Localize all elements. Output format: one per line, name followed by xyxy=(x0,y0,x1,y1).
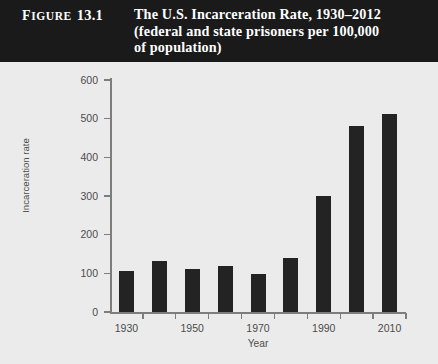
y-axis-tick-label: 0 xyxy=(28,307,98,317)
chart-panel: 0100200300400500600 19301950197019902010… xyxy=(0,62,438,364)
bar xyxy=(185,269,200,312)
x-axis-tick xyxy=(405,313,406,319)
figure-word-rest: IGURE xyxy=(31,10,72,22)
figure-title-line-3: of population) xyxy=(134,39,428,56)
figure-title-line-2: (federal and state prisoners per 100,000 xyxy=(134,23,428,40)
bar xyxy=(382,114,397,312)
y-axis-tick-label: 400 xyxy=(28,152,98,162)
x-axis-tick xyxy=(241,313,242,319)
x-axis-tick xyxy=(208,313,209,319)
y-axis-tick-label: 600 xyxy=(28,75,98,85)
y-axis-tick xyxy=(104,118,110,119)
y-axis-title: Incarceration rate xyxy=(20,121,31,231)
bar xyxy=(218,266,233,312)
y-axis-line xyxy=(110,78,112,313)
x-axis-line xyxy=(110,312,406,314)
x-axis-tick-label: 1930 xyxy=(104,322,148,334)
x-axis-tick xyxy=(175,313,176,319)
x-axis-tick-label: 1970 xyxy=(236,322,280,334)
y-axis-tick xyxy=(104,157,110,158)
y-axis-tick xyxy=(104,273,110,274)
bar xyxy=(119,271,134,312)
y-axis-tick-label: 200 xyxy=(28,229,98,239)
x-axis-tick xyxy=(372,313,373,319)
bar xyxy=(283,258,298,312)
y-axis-tick-label: 100 xyxy=(28,268,98,278)
y-axis-tick-label: 300 xyxy=(28,191,98,201)
figure-title-line-1: The U.S. Incarceration Rate, 1930–2012 xyxy=(134,6,428,23)
y-axis-tick xyxy=(104,195,110,196)
figure-word: FIGURE xyxy=(22,10,72,22)
x-axis-tick-label: 1950 xyxy=(170,322,214,334)
x-axis-tick xyxy=(307,313,308,319)
x-axis-tick xyxy=(340,313,341,319)
figure-number: 13.1 xyxy=(77,7,103,23)
x-axis-title: Year xyxy=(110,338,406,349)
x-axis-tick-label: 2010 xyxy=(368,322,412,334)
chart-plot-area: 0100200300400500600 19301950197019902010… xyxy=(0,62,438,364)
x-axis-tick xyxy=(142,313,143,319)
figure-number-label: FIGURE13.1 xyxy=(22,7,126,24)
figure-title: The U.S. Incarceration Rate, 1930–2012 (… xyxy=(134,6,428,56)
figure-header-band: FIGURE13.1 The U.S. Incarceration Rate, … xyxy=(0,0,438,62)
bar xyxy=(316,196,331,312)
y-axis-tick-label: 500 xyxy=(28,113,98,123)
bar xyxy=(152,261,167,312)
y-axis-tick xyxy=(104,79,110,80)
y-axis-tick xyxy=(104,311,110,312)
x-axis-tick xyxy=(274,313,275,319)
bar xyxy=(349,126,364,312)
y-axis-tick xyxy=(104,234,110,235)
bar xyxy=(251,274,266,312)
figure-word-initial: F xyxy=(22,8,31,23)
figure-container: FIGURE13.1 The U.S. Incarceration Rate, … xyxy=(0,0,438,364)
x-axis-tick-label: 1990 xyxy=(302,322,346,334)
